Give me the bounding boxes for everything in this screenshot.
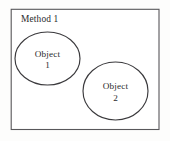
method-label: Method 1	[21, 14, 59, 24]
object-2-number: 2	[113, 93, 118, 103]
diagram-canvas: Method 1 Object 1 Object 2	[0, 0, 170, 141]
object-1-label: Object	[35, 49, 61, 59]
method-diagram: Method 1 Object 1 Object 2	[0, 0, 170, 141]
object-2-label: Object	[103, 81, 129, 91]
object-1-number: 1	[45, 60, 50, 70]
